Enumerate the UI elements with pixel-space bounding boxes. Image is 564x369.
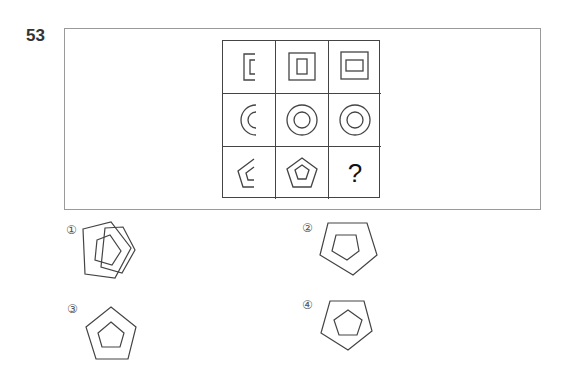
option-1[interactable]: ① (60, 220, 150, 288)
concentric-circles-icon (329, 94, 381, 146)
option-2-label: ② (302, 221, 313, 235)
cell-r3c3-missing: ? (329, 147, 381, 199)
nested-rectangle-horizontal-icon (329, 41, 381, 93)
pentagon-pointing-up-icon (83, 303, 153, 369)
pentagon-down-inner-up-icon (317, 295, 387, 363)
question-number: 53 (26, 26, 45, 46)
option-4[interactable]: ④ (295, 295, 395, 367)
cell-r1c3 (329, 41, 381, 94)
option-3[interactable]: ③ (60, 295, 160, 367)
cell-r1c2 (276, 41, 329, 94)
pattern-grid: ? (222, 40, 380, 198)
partial-concentric-arc-icon (223, 94, 275, 146)
pentagon-rotated-right-icon (80, 220, 150, 288)
option-4-label: ④ (302, 298, 313, 312)
option-1-label: ① (66, 223, 77, 237)
concentric-circles-icon (276, 94, 328, 146)
cell-r2c1 (223, 94, 276, 147)
nested-rectangle-vertical-icon (276, 41, 328, 93)
nested-pentagon-icon (276, 147, 328, 199)
option-2[interactable]: ② (295, 220, 395, 290)
cell-r3c1 (223, 147, 276, 199)
cell-r2c2 (276, 94, 329, 147)
question-mark: ? (348, 158, 362, 189)
partial-nested-rectangle-icon (223, 41, 275, 93)
partial-nested-pentagon-icon (223, 147, 275, 199)
cell-r1c1 (223, 41, 276, 94)
option-3-label: ③ (67, 302, 78, 316)
pentagon-pointing-down-icon (316, 220, 386, 288)
cell-r3c2 (276, 147, 329, 199)
cell-r2c3 (329, 94, 381, 147)
